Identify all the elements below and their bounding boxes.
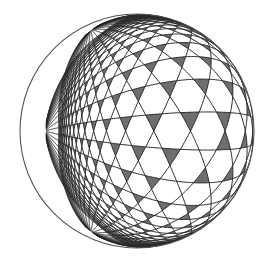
figure-canvas [0, 0, 267, 264]
shaded-triangle [146, 114, 162, 131]
shaded-triangle [180, 112, 199, 131]
shaded-triangle [111, 143, 120, 156]
shaded-triangle [132, 193, 144, 203]
kagome-sphere-diagram [0, 0, 267, 264]
shaded-triangle [132, 146, 146, 161]
lattice-line [46, 79, 249, 130]
lattice-lines [46, 15, 254, 248]
lattice-line [68, 16, 161, 230]
shaded-triangle [133, 50, 143, 59]
